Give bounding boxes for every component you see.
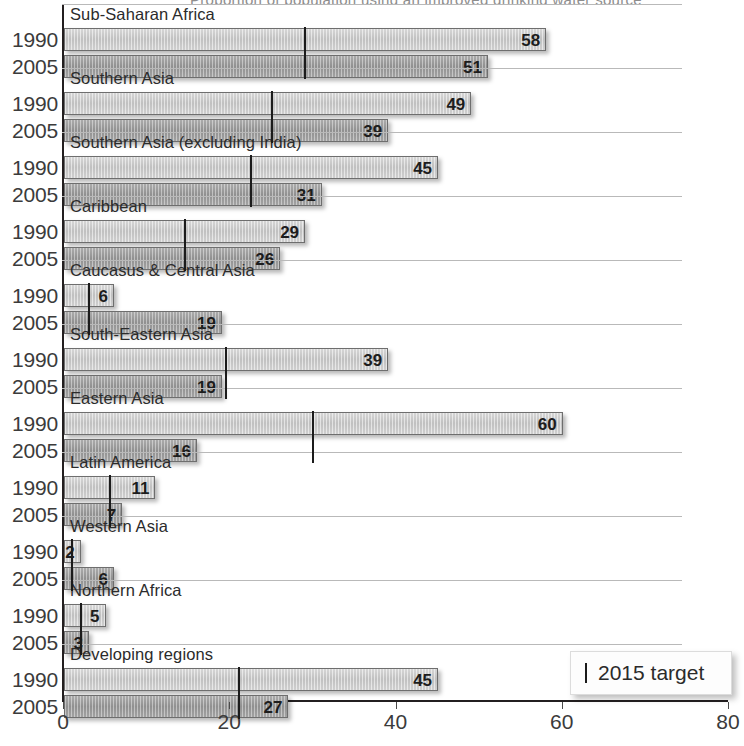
year-label: 2005: [0, 693, 58, 720]
group-title: Eastern Asia: [70, 389, 164, 408]
year-label: 1990: [0, 474, 58, 501]
year-label: 1990: [0, 90, 58, 117]
bar-group: South-Eastern Asia199039200519: [0, 324, 744, 388]
x-axis-tick-label: 40: [384, 710, 407, 734]
target-marker: [225, 347, 227, 399]
target-marker: [271, 91, 273, 143]
bar-value-label: 58: [521, 29, 540, 52]
bar-row: 19905: [0, 602, 744, 629]
year-label: 1990: [0, 666, 58, 693]
group-title: Northern Africa: [70, 581, 182, 600]
bar-row: 199029: [0, 218, 744, 245]
target-marker: [80, 603, 82, 655]
target-marker: [88, 283, 90, 335]
bar-chart: Proportion of population using an improv…: [0, 0, 744, 746]
bar[interactable]: 45: [64, 668, 438, 691]
bar-value-label: 60: [538, 413, 557, 436]
group-title: Developing regions: [70, 645, 213, 664]
bar-group: Southern Asia (excluding India)199045200…: [0, 132, 744, 196]
group-title: Southern Asia (excluding India): [70, 133, 302, 152]
bar-value-label: 45: [413, 157, 432, 180]
year-label: 1990: [0, 218, 58, 245]
bar-group: Caribbean199029200526: [0, 196, 744, 260]
bar-group: Sub-Saharan Africa199058200551: [0, 4, 744, 68]
target-marker: [184, 219, 186, 271]
bar-container: 45: [64, 668, 438, 691]
bar-row: 200527: [0, 693, 744, 720]
bar-group: Northern Africa1990520053: [0, 580, 744, 644]
group-title: Sub-Saharan Africa: [70, 5, 215, 24]
year-label: 1990: [0, 410, 58, 437]
target-marker: [238, 667, 240, 719]
bar-row: 199058: [0, 26, 744, 53]
bar-container: 49: [64, 92, 471, 115]
bar-group: Eastern Asia199060200516: [0, 388, 744, 452]
bar-value-label: 11: [131, 477, 149, 500]
group-title: Western Asia: [70, 517, 168, 536]
year-label: 1990: [0, 26, 58, 53]
bar-row: 199060: [0, 410, 744, 437]
bar-value-label: 39: [363, 349, 382, 372]
bar[interactable]: 27: [64, 695, 288, 718]
bar-row: 19902: [0, 538, 744, 565]
bar-row: 199049: [0, 90, 744, 117]
x-axis-tick: [562, 702, 563, 709]
bar-row: 199011: [0, 474, 744, 501]
year-label: 1990: [0, 602, 58, 629]
year-label: 1990: [0, 154, 58, 181]
group-title: Latin America: [70, 453, 171, 472]
bar-row: 19906: [0, 282, 744, 309]
legend: 2015 target: [570, 651, 732, 695]
x-axis-tick-label: 80: [716, 710, 739, 734]
bar-group: Western Asia1990220056: [0, 516, 744, 580]
target-marker: [250, 155, 252, 207]
legend-label: 2015 target: [598, 661, 704, 685]
year-label: 1990: [0, 346, 58, 373]
group-title: Caucasus & Central Asia: [70, 261, 255, 280]
bar-container: 27: [64, 695, 288, 718]
year-label: 1990: [0, 538, 58, 565]
bar-value-label: 29: [280, 221, 299, 244]
bar-row: 199045: [0, 154, 744, 181]
group-divider: [62, 196, 682, 197]
bar[interactable]: 49: [64, 92, 471, 115]
target-marker: [109, 475, 111, 527]
bar-row: 199039: [0, 346, 744, 373]
year-label: 1990: [0, 282, 58, 309]
group-title: South-Eastern Asia: [70, 325, 213, 344]
bar-value-label: 45: [413, 669, 432, 692]
bar-value-label: 49: [446, 93, 465, 116]
bar-group: Caucasus & Central Asia19906200519: [0, 260, 744, 324]
bar-value-label: 27: [264, 696, 283, 719]
x-axis-tick: [63, 702, 64, 709]
target-marker: [304, 27, 306, 79]
bar-value-label: 5: [90, 605, 99, 628]
bar-group: Southern Asia199049200539: [0, 68, 744, 132]
x-axis-tick: [728, 702, 729, 709]
bar-container: 5: [64, 604, 106, 627]
bar-value-label: 6: [98, 285, 107, 308]
x-axis-tick-label: 0: [57, 710, 69, 734]
group-title: Southern Asia: [70, 69, 174, 88]
plot-area: Sub-Saharan Africa199058200551Southern A…: [0, 0, 744, 706]
target-marker: [312, 411, 314, 463]
bar-group: Latin America19901120057: [0, 452, 744, 516]
x-axis-tick: [396, 702, 397, 709]
x-axis-tick: [229, 702, 230, 709]
bar[interactable]: 5: [64, 604, 106, 627]
target-marker-icon: [585, 663, 587, 683]
target-marker: [71, 539, 73, 591]
group-title: Caribbean: [70, 197, 147, 216]
x-axis-tick-label: 60: [550, 710, 573, 734]
